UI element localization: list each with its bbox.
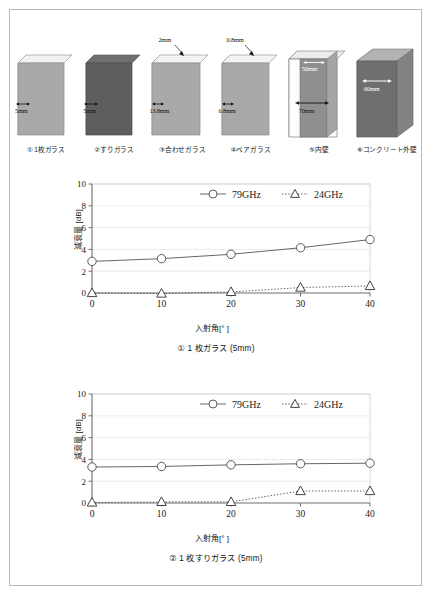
specimen-5-drawing: 50mm 70mm xyxy=(287,29,351,144)
svg-text:20: 20 xyxy=(226,299,236,309)
svg-text:79GHz: 79GHz xyxy=(232,189,261,200)
svg-text:4: 4 xyxy=(82,245,87,255)
chart-2-xlabel: 入射角[° ] xyxy=(62,532,362,543)
specimen-4-drawing: 0.8mm 6.8mm xyxy=(219,29,283,144)
specimen-1-dim-arrow-icon xyxy=(16,101,32,107)
specimen-2-dim-arrow-icon xyxy=(84,101,100,107)
chart-2-area: 減衰量 [dB] 024681001020304079GHz24GHz 入射角[… xyxy=(46,388,386,550)
frosted-glass-icon xyxy=(82,29,146,144)
specimen-6: 60mm ⑥コンクリート外壁 xyxy=(355,18,419,154)
specimen-4-leader-icon xyxy=(244,45,258,57)
chart-1-xlabel: 入射角[° ] xyxy=(62,322,362,333)
svg-text:0: 0 xyxy=(90,509,95,519)
svg-text:10: 10 xyxy=(77,389,87,399)
specimen-3-dim-arrow-icon xyxy=(152,101,166,107)
specimen-3-label: ③合わせガラス xyxy=(159,145,206,154)
svg-text:40: 40 xyxy=(365,509,375,519)
specimen-4-dim-arrow-icon xyxy=(222,101,236,107)
svg-text:4: 4 xyxy=(82,455,87,465)
specimen-5-dim-0: 50mm xyxy=(302,65,318,72)
svg-text:2: 2 xyxy=(82,477,87,487)
svg-text:30: 30 xyxy=(296,299,306,309)
chart-2-block: 減衰量 [dB] 024681001020304079GHz24GHz 入射角[… xyxy=(46,388,386,550)
specimen-3-drawing: 2mm 13.8mm xyxy=(150,29,214,144)
specimen-1-label: ① 1枚ガラス xyxy=(27,145,65,154)
svg-text:10: 10 xyxy=(157,299,167,309)
specimen-5-dim-arrow-top-icon xyxy=(303,60,325,65)
specimen-2-label: ②すりガラス xyxy=(94,145,134,154)
svg-text:8: 8 xyxy=(82,201,87,211)
specimen-1: 5mm ① 1枚ガラス xyxy=(14,18,78,154)
svg-text:24GHz: 24GHz xyxy=(314,189,343,200)
specimen-4-label: ④ペアガラス xyxy=(231,145,271,154)
specimen-3-dim-1: 13.8mm xyxy=(149,107,169,114)
specimen-1-drawing: 5mm xyxy=(14,29,78,144)
svg-text:6: 6 xyxy=(82,223,87,233)
svg-text:0: 0 xyxy=(82,288,87,298)
specimen-4-dim-1: 6.8mm xyxy=(219,107,236,114)
specimen-5: 50mm 70mm ⑤内壁 xyxy=(287,18,351,154)
svg-text:20: 20 xyxy=(226,509,236,519)
chart-1-plot: 024681001020304079GHz24GHz xyxy=(62,178,382,323)
chart-2-caption: ② 1 枚すりガラス (5mm) xyxy=(46,551,386,563)
svg-text:10: 10 xyxy=(77,179,87,189)
specimen-2-dim-0: 5mm xyxy=(83,107,96,114)
specimen-row: 5mm ① 1枚ガラス 5mm xyxy=(14,18,419,154)
svg-text:24GHz: 24GHz xyxy=(314,399,343,410)
svg-text:8: 8 xyxy=(82,411,87,421)
specimen-6-dim-0: 60mm xyxy=(364,85,380,92)
specimen-5-dim-1: 70mm xyxy=(299,107,315,114)
svg-text:79GHz: 79GHz xyxy=(232,399,261,410)
svg-text:6: 6 xyxy=(82,433,87,443)
chart-2-plot: 024681001020304079GHz24GHz xyxy=(62,388,382,533)
specimen-4: 0.8mm 6.8mm ④ペアガラス xyxy=(219,18,283,154)
svg-text:10: 10 xyxy=(157,509,167,519)
specimen-5-label: ⑤内壁 xyxy=(309,145,328,154)
svg-text:40: 40 xyxy=(365,299,375,309)
specimen-2: 5mm ②すりガラス xyxy=(82,18,146,154)
specimen-4-dim-0: 0.8mm xyxy=(227,36,244,43)
svg-text:2: 2 xyxy=(82,267,87,277)
svg-text:0: 0 xyxy=(82,498,87,508)
specimen-5-dim-arrow-bottom-icon xyxy=(295,100,329,106)
svg-text:30: 30 xyxy=(296,509,306,519)
chart-1-area: 減衰量 [dB] 024681001020304079GHz24GHz 入射角[… xyxy=(46,178,386,340)
specimen-3: 2mm 13.8mm ③合わせガラス xyxy=(150,18,214,154)
specimen-6-label: ⑥コンクリート外壁 xyxy=(357,145,417,154)
figure-page: 5mm ① 1枚ガラス 5mm xyxy=(0,0,431,600)
single-light-glass-icon xyxy=(14,29,78,144)
specimen-3-dim-0: 2mm xyxy=(158,36,171,43)
specimen-2-drawing: 5mm xyxy=(82,29,146,144)
inner-wall-icon xyxy=(287,29,351,144)
specimen-6-dim-arrow-icon xyxy=(362,78,392,84)
specimen-3-leader-icon xyxy=(174,45,188,57)
svg-text:0: 0 xyxy=(90,299,95,309)
chart-1-caption: ① 1 枚ガラス (5mm) xyxy=(46,341,386,353)
specimen-6-drawing: 60mm xyxy=(355,29,419,144)
chart-1-block: 減衰量 [dB] 024681001020304079GHz24GHz 入射角[… xyxy=(46,178,386,340)
specimen-1-dim-0: 5mm xyxy=(15,107,28,114)
